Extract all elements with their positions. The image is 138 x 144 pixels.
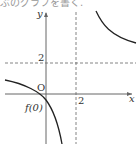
y-axis-arrow-icon bbox=[44, 12, 48, 17]
intercept-label: f(0) bbox=[24, 102, 43, 113]
y-axis-label: y bbox=[36, 8, 43, 19]
function-graph: y x O 2 2 f(0) bbox=[0, 0, 138, 144]
x-axis-label: x bbox=[129, 93, 135, 104]
right-branch-curve bbox=[96, 11, 136, 43]
origin-label: O bbox=[37, 82, 45, 93]
y-tick-label: 2 bbox=[38, 52, 44, 63]
x-tick-label: 2 bbox=[78, 95, 84, 106]
